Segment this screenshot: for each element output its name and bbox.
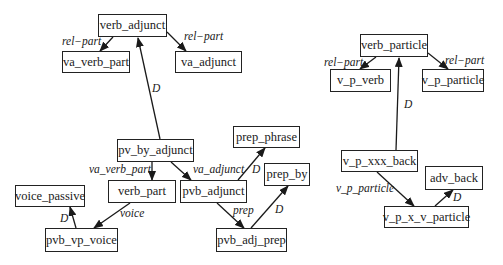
node-prep-phrase: prep_phrase bbox=[233, 126, 300, 148]
node-pv-by-adjunct: pv_by_adjunct bbox=[117, 139, 194, 162]
node-v-p-xxx-back: v_p_xxx_back bbox=[341, 150, 418, 172]
node-verb-particle: verb_particle bbox=[360, 34, 428, 57]
edge-label-d: D bbox=[252, 163, 260, 175]
node-pvb-adjunct: pvb_adjunct bbox=[180, 180, 247, 203]
edge-label-rel-part: rel−part bbox=[184, 30, 223, 42]
node-verb-part: verb_part bbox=[108, 180, 176, 203]
edge-label-d: D bbox=[275, 203, 283, 215]
node-v-p-particle: v_p_particle bbox=[422, 69, 484, 92]
edge-label-rel-part: rel−part bbox=[62, 35, 101, 47]
node-pvb-adj-prep: pvb_adj_prep bbox=[216, 228, 287, 252]
node-pvb-vp-voice: pvb_vp_voice bbox=[45, 228, 118, 252]
node-voice-passive: voice_passive bbox=[15, 185, 85, 207]
edge-label-d: D bbox=[453, 191, 461, 203]
node-adv-back: adv_back bbox=[425, 166, 483, 190]
node-v-p-x-v-particle: v_p_x_v_particle bbox=[384, 206, 469, 228]
node-prep-by: prep_by bbox=[264, 163, 310, 186]
node-va-adjunct: va_adjunct bbox=[175, 51, 242, 73]
edge-label-d: D bbox=[152, 82, 160, 94]
edge-label-rel-part: rel−part bbox=[324, 56, 363, 68]
edge-label-rel-part: rel−part bbox=[445, 54, 484, 66]
edge-label-voice: voice bbox=[120, 207, 144, 219]
edge-rel-part-left bbox=[100, 37, 113, 51]
node-va-verb-part: va_verb_part bbox=[62, 51, 130, 73]
edge-d-adv-back bbox=[435, 190, 453, 206]
edge-label-va-verb-part: va_verb_part bbox=[89, 163, 151, 175]
edge-label-va-adjunct: va_adjunct bbox=[193, 163, 244, 175]
feature-structure-diagram: verb_adjunct va_verb_part va_adjunct pv_… bbox=[0, 0, 503, 265]
node-v-p-verb: v_p_verb bbox=[330, 69, 391, 92]
node-verb-adjunct: verb_adjunct bbox=[98, 14, 167, 37]
edge-label-v-p-particle: v_p_particle bbox=[336, 182, 394, 194]
edge-label-d: D bbox=[60, 212, 68, 224]
edge-label-prep: prep bbox=[233, 204, 254, 216]
edge-d-voice-passive bbox=[70, 207, 76, 228]
edge-d-verb-particle bbox=[396, 58, 399, 150]
edge-label-d: D bbox=[404, 98, 412, 110]
edge-va-adjunct bbox=[171, 162, 191, 180]
